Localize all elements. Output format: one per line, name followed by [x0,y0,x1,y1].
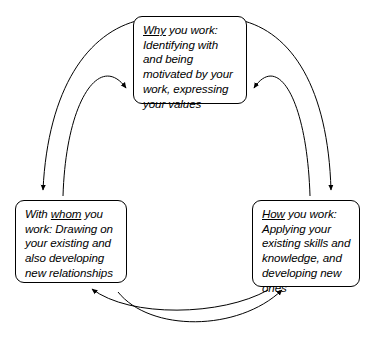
cycle-diagram: Why you work: Identifying with and being… [0,0,372,343]
arrow-how-to-why [254,76,310,196]
node-why-keyword: Why [143,23,166,36]
node-whom-prefix: With [25,207,51,220]
arrow-why-to-how [240,20,331,190]
node-how-you-work[interactable]: How you work: Applying your existing ski… [252,200,360,287]
node-with-whom-you-work[interactable]: With whom you work: Drawing on your exis… [15,200,127,283]
node-whom-keyword: whom [51,207,82,220]
arrow-whom-to-why [63,76,126,196]
node-how-keyword: How [262,207,285,220]
node-why-text: Why you work: Identifying with and being… [143,23,238,111]
node-whom-text: With whom you work: Drawing on your exis… [25,207,118,281]
node-how-text: How you work: Applying your existing ski… [262,207,351,295]
node-why-you-work[interactable]: Why you work: Identifying with and being… [133,16,247,104]
arrow-why-to-whom [43,20,140,190]
